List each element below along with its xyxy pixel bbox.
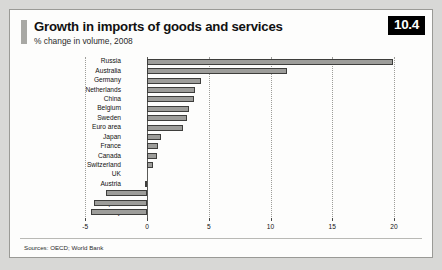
- axis-tick: [394, 218, 395, 221]
- chart-card: Growth in imports of goods and services …: [9, 9, 433, 258]
- axis-tick: [271, 218, 272, 221]
- sources-note: Sources: OECD; World Bank: [24, 244, 103, 251]
- bar: [106, 190, 147, 196]
- axis-tick-label: 15: [329, 223, 336, 230]
- footer-divider: [20, 238, 422, 239]
- axis-tick: [332, 218, 333, 221]
- axis-tick-label: 10: [267, 223, 274, 230]
- bar: [147, 68, 287, 74]
- bar: [147, 115, 187, 121]
- axis-tick: [85, 218, 86, 221]
- bar: [147, 96, 194, 102]
- bar: [147, 106, 189, 112]
- gridline: [209, 57, 210, 217]
- bar: [147, 134, 161, 140]
- value-axis: -505101520: [10, 220, 434, 234]
- gridline: [85, 57, 86, 217]
- axis-tick-label: 5: [207, 223, 211, 230]
- bars-container: [10, 57, 434, 217]
- bar: [147, 162, 153, 168]
- bar: [147, 87, 195, 93]
- bar: [147, 78, 201, 84]
- screenshot-root: Growth in imports of goods and services …: [0, 0, 442, 270]
- gridline: [394, 57, 395, 217]
- gridline: [271, 57, 272, 217]
- axis-tick: [147, 218, 148, 221]
- axis-tick: [209, 218, 210, 221]
- gridline: [332, 57, 333, 217]
- bar: [147, 125, 183, 131]
- bar: [91, 209, 147, 215]
- bar: [145, 181, 147, 187]
- bar: [147, 143, 158, 149]
- chart-plot-area: RussiaAustraliaGermanyNetherlandsChinaBe…: [10, 10, 434, 259]
- axis-tick-label: 20: [390, 223, 397, 230]
- bar: [94, 200, 147, 206]
- axis-tick-label: -5: [82, 223, 88, 230]
- axis-tick-label: 0: [145, 223, 149, 230]
- bar: [147, 153, 157, 159]
- bar: [147, 59, 393, 65]
